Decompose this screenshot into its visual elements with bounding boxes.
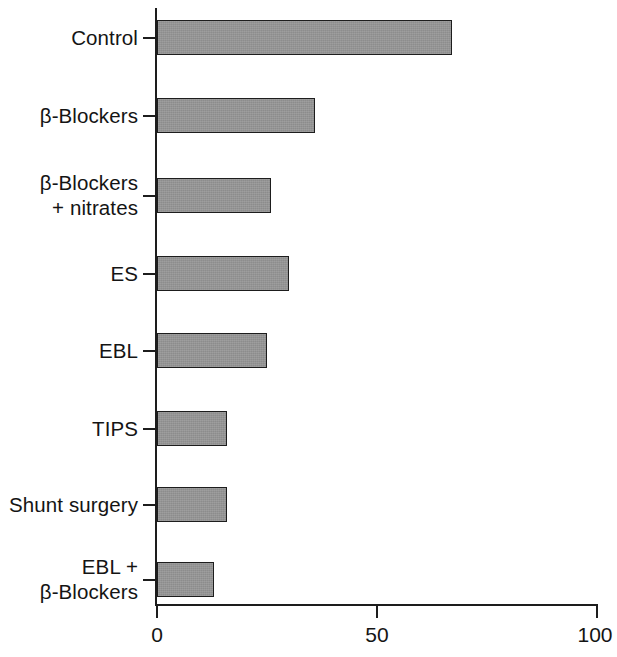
value-tick-50: [376, 606, 378, 618]
category-label-shunt-surgery: Shunt surgery: [9, 492, 138, 517]
value-tick-label-100: 100: [577, 622, 612, 647]
category-tick-ebl: [143, 350, 156, 352]
value-tick-0: [156, 606, 158, 618]
category-label-ebl-beta-blockers-line1: EBL +: [82, 554, 138, 579]
category-label-beta-blockers: β-Blockers: [40, 103, 138, 128]
bar-row: [0, 256, 617, 291]
category-tick-beta-blockers: [143, 115, 156, 117]
bar-es: [157, 256, 289, 291]
bar-shunt-surgery: [157, 487, 227, 522]
category-label-es: ES: [110, 261, 138, 286]
value-tick-label-50: 50: [365, 622, 388, 647]
category-label-ebl-beta-blockers-line2: β-Blockers: [40, 579, 138, 604]
bar-beta-blockers: [157, 98, 315, 133]
category-tick-es: [143, 273, 156, 275]
category-label-ebl: EBL: [99, 338, 138, 363]
bar-tips: [157, 411, 227, 446]
category-tick-control: [143, 37, 156, 39]
category-label-control: Control: [71, 25, 138, 50]
bar-ebl-beta-blockers: [157, 562, 214, 597]
category-tick-beta-blockers-nitrates: [143, 195, 156, 197]
value-tick-100: [596, 606, 598, 618]
category-label-beta-blockers-nitrates-line2: + nitrates: [52, 195, 138, 220]
bar-ebl: [157, 333, 267, 368]
value-tick-label-0: 0: [151, 622, 163, 647]
horizontal-bar-chart: Control β-Blockers β-Blockers + nitrates…: [0, 0, 617, 657]
bars-layer: Control β-Blockers β-Blockers + nitrates…: [0, 0, 617, 657]
category-label-tips: TIPS: [92, 416, 138, 441]
plot-area: Control β-Blockers β-Blockers + nitrates…: [0, 0, 617, 657]
category-tick-ebl-beta-blockers: [143, 579, 156, 581]
bar-row: [0, 333, 617, 368]
category-tick-tips: [143, 428, 156, 430]
bar-control: [157, 20, 452, 55]
bar-beta-blockers-nitrates: [157, 178, 271, 213]
category-tick-shunt-surgery: [143, 504, 156, 506]
category-label-beta-blockers-nitrates-line1: β-Blockers: [40, 170, 138, 195]
